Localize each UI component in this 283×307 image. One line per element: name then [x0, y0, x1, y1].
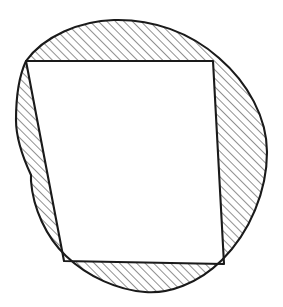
figure-container: Inscribed quadrilateral in circle A hand…: [0, 0, 283, 307]
inscribed-quadrilateral-figure: Inscribed quadrilateral in circle A hand…: [0, 0, 283, 307]
